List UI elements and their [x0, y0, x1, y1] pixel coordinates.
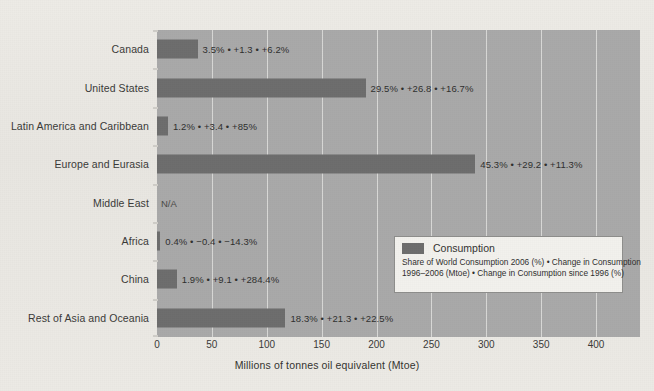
- chart-row: United States29.5% • +26.8 • +16.7%: [0, 68, 654, 106]
- category-label-united-states: United States: [85, 82, 149, 94]
- bar-canada[interactable]: [157, 40, 198, 59]
- bar-value-label-na: N/A: [161, 197, 177, 208]
- bar-africa[interactable]: [157, 232, 160, 251]
- x-axis-tick-label-150: 150: [313, 339, 330, 350]
- x-axis-tick-label-50: 50: [206, 339, 217, 350]
- bar-latin-america-and-caribbean[interactable]: [157, 116, 168, 135]
- bar-value-label: 0.4% • −0.4 • −14.3%: [165, 236, 257, 247]
- bar-rest-of-asia-and-oceania[interactable]: [157, 308, 285, 327]
- legend-description-line-1: Share of World Consumption 2006 (%) • Ch…: [402, 257, 615, 268]
- chart-row: Middle EastN/A: [0, 184, 654, 222]
- legend-description-line-2: 1996–2006 (Mtoe) • Change in Consumption…: [402, 268, 615, 279]
- chart-row: Canada3.5% • +1.3 • +6.2%: [0, 30, 654, 68]
- bar-value-label: 1.9% • +9.1 • +284.4%: [182, 274, 280, 285]
- legend-series-label: Consumption: [433, 242, 495, 254]
- bar-value-label: 45.3% • +29.2 • +11.3%: [480, 159, 582, 170]
- category-label-china: China: [121, 273, 149, 285]
- chart-row: Latin America and Caribbean1.2% • +3.4 •…: [0, 107, 654, 145]
- category-label-rest-of-asia-and-oceania: Rest of Asia and Oceania: [28, 312, 149, 324]
- chart-legend: Consumption Share of World Consumption 2…: [394, 236, 623, 293]
- x-axis-tick-label-400: 400: [588, 339, 605, 350]
- category-label-middle-east: Middle East: [93, 197, 149, 209]
- x-axis-title: Millions of tonnes oil equivalent (Mtoe): [0, 359, 654, 371]
- category-label-africa: Africa: [122, 235, 149, 247]
- legend-series-row: Consumption: [402, 242, 615, 254]
- category-label-canada: Canada: [112, 43, 149, 55]
- bar-value-label: 3.5% • +1.3 • +6.2%: [203, 44, 290, 55]
- chart-row: Rest of Asia and Oceania18.3% • +21.3 • …: [0, 299, 654, 337]
- x-axis-tick-label-0: 0: [154, 339, 160, 350]
- legend-color-swatch: [402, 243, 424, 254]
- x-axis-tick-label-200: 200: [368, 339, 385, 350]
- x-axis-tick-label-300: 300: [478, 339, 495, 350]
- x-axis-tick-label-100: 100: [258, 339, 275, 350]
- x-axis-tick-label-350: 350: [533, 339, 550, 350]
- chart-page: Canada3.5% • +1.3 • +6.2%United States29…: [0, 0, 654, 391]
- bar-value-label: 29.5% • +26.8 • +16.7%: [371, 82, 474, 93]
- bar-china[interactable]: [157, 270, 177, 289]
- category-label-europe-and-eurasia: Europe and Eurasia: [54, 158, 149, 170]
- bar-value-label: 1.2% • +3.4 • +85%: [173, 120, 257, 131]
- x-axis-tick-label-250: 250: [423, 339, 440, 350]
- bar-value-label: 18.3% • +21.3 • +22.5%: [290, 312, 393, 323]
- category-label-latin-america-and-caribbean: Latin America and Caribbean: [11, 120, 149, 132]
- chart-row: Europe and Eurasia45.3% • +29.2 • +11.3%: [0, 145, 654, 183]
- bar-europe-and-eurasia[interactable]: [157, 155, 475, 174]
- bar-united-states[interactable]: [157, 78, 366, 97]
